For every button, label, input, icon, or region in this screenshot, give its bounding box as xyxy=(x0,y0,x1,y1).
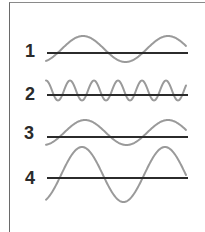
waves-canvas xyxy=(0,0,205,232)
wave-4 xyxy=(46,147,188,202)
wave-1 xyxy=(46,36,188,62)
wave-curve xyxy=(46,36,186,62)
wave-2 xyxy=(46,81,188,101)
wave-3 xyxy=(46,120,188,145)
wave-curve xyxy=(46,147,186,202)
wave-curve xyxy=(46,120,186,145)
wave-curve xyxy=(46,81,186,101)
